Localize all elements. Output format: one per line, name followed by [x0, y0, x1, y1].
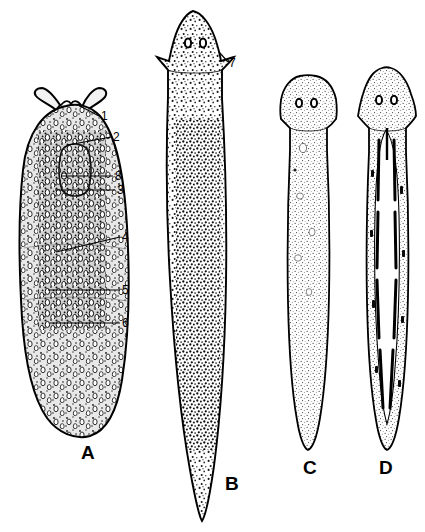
- specimen-label-b: B: [225, 474, 239, 493]
- eyespot-left: [296, 99, 302, 107]
- eyespot-right: [391, 96, 397, 104]
- callout-number-4: 4: [122, 231, 129, 243]
- callout-number-7: 7: [229, 57, 236, 69]
- specimen-a: [15, 88, 140, 450]
- figure-plate: A B C D 12834567: [0, 0, 425, 532]
- specimen-d: [352, 62, 424, 454]
- eyespot-left: [376, 96, 382, 104]
- eyespot-right: [311, 99, 317, 107]
- specimen-b-body-texture: [150, 5, 245, 530]
- eyespot-left: [185, 39, 191, 48]
- callout-number-2: 2: [113, 131, 120, 143]
- specimen-a-body-texture: [15, 95, 140, 450]
- specimen-label-c: C: [303, 458, 317, 477]
- specimen-illustration-svg: [0, 0, 425, 532]
- specimen-label-d: D: [379, 458, 393, 477]
- callout-number-1: 1: [101, 110, 108, 122]
- specimen-c-body-texture: [275, 70, 345, 460]
- callout-number-3: 3: [117, 184, 124, 196]
- specimen-label-a: A: [81, 443, 95, 462]
- callout-number-6: 6: [122, 317, 129, 329]
- callout-number-8: 8: [115, 170, 122, 182]
- eyespot-right: [200, 39, 206, 48]
- tentacle-left: [35, 88, 60, 110]
- callout-number-5: 5: [122, 284, 129, 296]
- specimen-b: [150, 5, 245, 530]
- specimen-c: [275, 70, 345, 460]
